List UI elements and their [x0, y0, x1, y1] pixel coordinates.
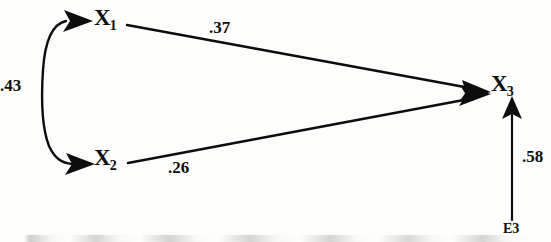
path-x2-to-x3-line [128, 99, 469, 163]
path-e3-to-x3 [502, 96, 522, 220]
node-x1-base: X [94, 5, 111, 30]
node-label-x3: X3 [491, 72, 515, 95]
error-term-label-e3: E3 [503, 222, 519, 236]
coefficient-label-e3-x3: .58 [522, 148, 543, 165]
node-label-x1: X1 [94, 6, 118, 29]
path-x1-to-x3-line [127, 25, 470, 88]
path-x1-to-x3 [127, 25, 491, 102]
node-x3-subscript: 3 [507, 84, 514, 99]
path-diagram: X1 X2 X3 E3 .37 .26 .43 .58 [0, 0, 551, 242]
coefficient-label-x1-x3: .37 [209, 19, 230, 36]
diagram-canvas [0, 0, 551, 242]
coefficient-label-x1-x2: .43 [0, 77, 21, 94]
path-x1-x2-arrowhead-top [63, 10, 93, 32]
path-x1-x2-correlation-curve [42, 21, 72, 164]
path-x2-to-x3 [128, 85, 491, 163]
node-label-x2: X2 [94, 146, 118, 169]
node-x1-subscript: 1 [110, 18, 117, 33]
coefficient-label-x2-x3: .26 [168, 159, 189, 176]
node-x2-subscript: 2 [110, 158, 117, 173]
path-x1-x2-correlation [42, 10, 95, 175]
node-x3-base: X [491, 71, 508, 96]
node-x2-base: X [94, 145, 111, 170]
